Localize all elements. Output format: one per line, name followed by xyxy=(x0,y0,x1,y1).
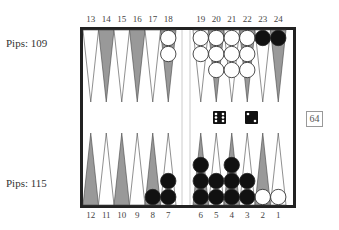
black-checker xyxy=(255,30,270,45)
die-pip xyxy=(254,120,257,123)
white-checker xyxy=(209,30,224,45)
top-point-triangle xyxy=(130,30,146,102)
die-pip xyxy=(215,120,218,123)
white-checker xyxy=(240,62,255,77)
die-pip xyxy=(222,113,225,116)
top-point-triangle xyxy=(114,30,130,102)
black-checker xyxy=(193,173,208,188)
white-checker xyxy=(224,30,239,45)
black-checker xyxy=(209,189,224,204)
die-pip xyxy=(215,116,218,119)
black-checker xyxy=(224,173,239,188)
die-pip xyxy=(222,116,225,119)
black-checker xyxy=(145,189,160,204)
bottom-point-triangle xyxy=(83,133,99,205)
white-checker xyxy=(193,30,208,45)
white-checker xyxy=(240,30,255,45)
doubling-cube[interactable]: 64 xyxy=(306,111,323,127)
white-checker xyxy=(161,30,176,45)
white-checker xyxy=(271,189,286,204)
black-checker xyxy=(193,189,208,204)
die-pip xyxy=(247,113,250,116)
black-checker xyxy=(209,173,224,188)
black-checker xyxy=(271,30,286,45)
top-point-triangle xyxy=(83,30,99,102)
die-pip xyxy=(222,120,225,123)
black-checker xyxy=(240,173,255,188)
white-checker xyxy=(193,46,208,61)
white-checker xyxy=(240,46,255,61)
white-checker xyxy=(224,46,239,61)
white-checker xyxy=(209,46,224,61)
white-checker xyxy=(255,189,270,204)
black-checker xyxy=(193,157,208,172)
black-checker xyxy=(161,173,176,188)
black-checker xyxy=(161,189,176,204)
white-checker xyxy=(161,46,176,61)
top-point-triangle xyxy=(145,30,161,102)
bottom-point-triangle xyxy=(114,133,130,205)
die-right xyxy=(245,111,258,124)
black-checker xyxy=(224,189,239,204)
top-point-triangle xyxy=(99,30,115,102)
black-checker xyxy=(224,157,239,172)
bottom-point-triangle xyxy=(130,133,146,205)
white-checker xyxy=(224,62,239,77)
white-checker xyxy=(209,62,224,77)
board-graphics xyxy=(0,0,339,230)
black-checker xyxy=(240,189,255,204)
bottom-point-triangle xyxy=(99,133,115,205)
die-pip xyxy=(215,113,218,116)
